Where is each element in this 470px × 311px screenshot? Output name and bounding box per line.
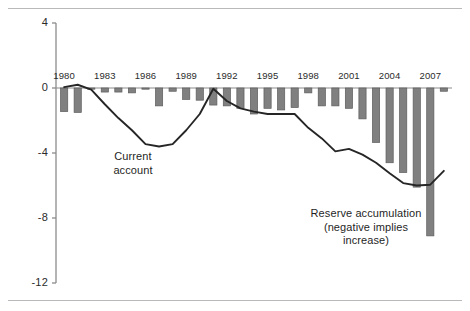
x-tick-label-2004: 2004 [370, 70, 410, 81]
x-tick-label-1986: 1986 [126, 70, 166, 81]
x-tick-label-1989: 1989 [166, 70, 206, 81]
chart-plot-area [0, 0, 470, 311]
annotation-current-account-line1: Current [97, 150, 169, 164]
y-tick-label-0: 4 [18, 16, 48, 28]
bar-1995 [264, 88, 271, 108]
x-tick-label-1998: 1998 [288, 70, 328, 81]
annotation-current-account: Current account [97, 150, 169, 177]
bar-2004 [386, 88, 393, 163]
bar-1988 [169, 88, 176, 91]
y-tick-label-4: -12 [18, 276, 48, 288]
bar-1981 [74, 88, 81, 112]
x-tick-label-2001: 2001 [329, 70, 369, 81]
annotation-reserve-line2: (negative implies [285, 221, 447, 235]
annotation-reserve-accumulation: Reserve accumulation (negative implies i… [285, 207, 447, 248]
annotation-reserve-line3: increase) [285, 234, 447, 248]
bar-2001 [345, 88, 352, 108]
x-tick-label-1992: 1992 [207, 70, 247, 81]
bar-1989 [183, 88, 190, 99]
x-tick-label-2007: 2007 [410, 70, 450, 81]
bar-1999 [318, 88, 325, 106]
bar-1983 [101, 88, 108, 92]
annotation-reserve-line1: Reserve accumulation [285, 207, 447, 221]
bar-1986 [142, 88, 149, 89]
x-tick-label-1995: 1995 [248, 70, 288, 81]
bar-2000 [332, 88, 339, 106]
bar-1993 [237, 88, 244, 108]
bar-1996 [278, 88, 285, 110]
figure-container: 40-4-8-12 198019831986198919921995199820… [0, 0, 470, 311]
y-tick-label-2: -4 [18, 146, 48, 158]
annotation-current-account-line2: account [97, 164, 169, 178]
bar-1980 [61, 88, 68, 112]
bar-2008 [440, 88, 447, 91]
bar-2005 [400, 88, 407, 173]
y-tick-label-3: -8 [18, 211, 48, 223]
bar-1997 [291, 88, 298, 108]
y-tick-label-1: 0 [18, 81, 48, 93]
chart-svg [0, 0, 470, 311]
bar-1985 [128, 88, 135, 93]
bar-2003 [372, 88, 379, 142]
bar-2002 [359, 88, 366, 119]
bar-1984 [115, 88, 122, 92]
bar-1987 [155, 88, 162, 106]
x-tick-label-1980: 1980 [44, 70, 84, 81]
x-tick-label-1983: 1983 [85, 70, 125, 81]
bar-2006 [413, 88, 420, 187]
bar-1998 [305, 88, 312, 93]
bar-1990 [196, 88, 203, 100]
